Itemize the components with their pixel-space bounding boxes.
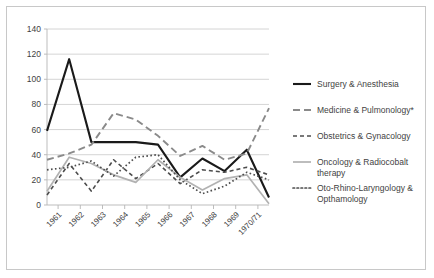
x-axis-tick-label: 1962 bbox=[67, 210, 86, 229]
y-axis-tick-label: 20 bbox=[32, 175, 42, 185]
x-axis-tick-label: 1965 bbox=[133, 210, 152, 229]
y-axis-tick-label: 60 bbox=[32, 125, 42, 135]
legend-label-0[interactable]: Surgery & Anesthesia bbox=[317, 79, 399, 89]
chart-frame: 0204060801001201401961196219631964196519… bbox=[6, 6, 426, 270]
x-axis-tick-label: 1970/71 bbox=[236, 210, 263, 237]
x-axis-tick-label: 1964 bbox=[111, 210, 130, 229]
y-axis-tick-label: 80 bbox=[32, 99, 42, 109]
legend-label-2[interactable]: Obstetrics & Gynacology bbox=[317, 131, 411, 141]
y-axis-tick-label: 100 bbox=[27, 74, 41, 84]
x-axis-tick-label: 1961 bbox=[45, 210, 64, 229]
line-chart: 0204060801001201401961196219631964196519… bbox=[7, 7, 425, 269]
x-axis-tick-label: 1968 bbox=[200, 210, 219, 229]
legend-label-4[interactable]: Oto-Rhino-Laryngology & bbox=[317, 183, 413, 193]
legend-label-4-line2[interactable]: Opthamology bbox=[317, 194, 368, 204]
x-axis-tick-label: 1969 bbox=[222, 210, 241, 229]
y-axis-tick-label: 140 bbox=[27, 24, 41, 34]
legend-label-1[interactable]: Medicine & Pulmonology* bbox=[317, 105, 415, 115]
legend-label-3-line2[interactable]: therapy bbox=[317, 168, 346, 178]
x-axis-tick-label: 1963 bbox=[89, 210, 108, 229]
y-axis-tick-label: 0 bbox=[36, 200, 41, 210]
x-axis-tick-label: 1967 bbox=[178, 210, 197, 229]
y-axis-tick-label: 40 bbox=[32, 150, 42, 160]
legend-label-3[interactable]: Oncology & Radiocobalt bbox=[317, 157, 409, 167]
y-axis-tick-label: 120 bbox=[27, 49, 41, 59]
series-line-1 bbox=[47, 108, 269, 160]
x-axis-tick-label: 1966 bbox=[156, 210, 175, 229]
